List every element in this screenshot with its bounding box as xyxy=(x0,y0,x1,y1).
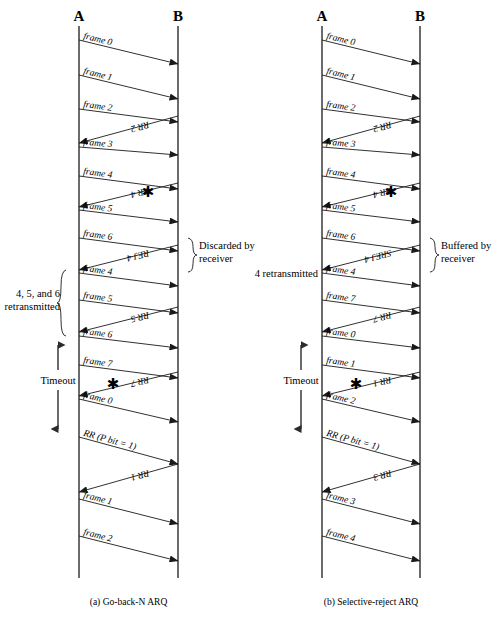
message-arrow xyxy=(79,273,178,286)
corruption-marker: ✱ xyxy=(385,183,398,201)
message-arrow xyxy=(79,147,178,155)
message-label: frame 4 xyxy=(83,263,114,277)
message-label: RR 1 xyxy=(130,468,152,483)
message-arrow xyxy=(322,40,420,64)
node-label-receiver: B xyxy=(415,8,425,24)
message-label: REJ 4 xyxy=(125,248,151,264)
timeout-label: Timeout xyxy=(283,375,318,386)
retransmitted-note-text: 4 retransmitted xyxy=(255,268,319,279)
message-arrow xyxy=(322,536,420,561)
panel-go-back-n: ABframe 0frame 1frame 2RR 2frame 3frame … xyxy=(5,8,256,608)
buffered-brace xyxy=(430,238,439,272)
message-label: frame 7 xyxy=(83,355,115,369)
message-label: frame 6 xyxy=(326,228,357,242)
panel-caption: (a) Go-back-N ARQ xyxy=(90,597,168,608)
message-arrow xyxy=(79,499,178,524)
message-arrow xyxy=(79,536,178,561)
corruption-marker: ✱ xyxy=(107,375,120,393)
message-label: frame 1 xyxy=(326,355,356,369)
discarded-brace-text: Discarded by xyxy=(199,240,255,251)
node-label-sender: A xyxy=(74,8,85,24)
message-arrow xyxy=(322,336,420,348)
message-label: frame 5 xyxy=(326,200,357,214)
retransmitted-brace-text: retransmitted xyxy=(5,301,61,312)
message-label: frame 2 xyxy=(326,99,357,113)
retransmitted-brace-text: 4, 5, and 6 xyxy=(16,288,60,299)
message-arrow xyxy=(79,210,178,222)
message-arrow xyxy=(79,399,178,422)
corruption-marker: ✱ xyxy=(350,375,363,393)
buffered-brace-text: receiver xyxy=(441,253,475,264)
message-arrow xyxy=(322,147,420,155)
message-label: RR 5 xyxy=(129,310,151,325)
message-arrow xyxy=(79,336,178,348)
discarded-brace-text: receiver xyxy=(199,253,233,264)
panel-caption: (b) Selective-reject ARQ xyxy=(324,597,419,608)
message-arrow xyxy=(322,464,420,492)
node-label-receiver: B xyxy=(173,8,183,24)
figure-canvas: ABframe 0frame 1frame 2RR 2frame 3frame … xyxy=(0,0,499,620)
message-label: SREJ 4 xyxy=(363,248,393,265)
corruption-marker: ✱ xyxy=(142,183,155,201)
message-arrow xyxy=(322,399,420,422)
message-label: frame 5 xyxy=(83,200,114,213)
message-arrow xyxy=(79,75,178,99)
message-label: frame 6 xyxy=(83,326,114,339)
message-label: frame 6 xyxy=(83,228,114,242)
buffered-brace-text: Buffered by xyxy=(441,240,492,251)
node-label-sender: A xyxy=(317,8,328,24)
message-arrow xyxy=(322,210,420,222)
message-arrow xyxy=(322,75,420,99)
timeout-label: Timeout xyxy=(40,375,75,386)
arq-timing-diagram: ABframe 0frame 1frame 2RR 2frame 3frame … xyxy=(0,0,499,620)
message-label: frame 2 xyxy=(83,99,114,113)
discarded-brace xyxy=(188,238,197,272)
message-arrow xyxy=(79,464,178,492)
message-label: RR 1 xyxy=(372,375,394,389)
message-arrow xyxy=(322,273,420,286)
message-arrow xyxy=(79,40,178,64)
message-label: RR 7 xyxy=(128,375,151,390)
message-label: RR 7 xyxy=(371,310,394,325)
message-arrow xyxy=(322,499,420,524)
panel-selective-reject: ABframe 0frame 1frame 2RR 2frame 3frame … xyxy=(255,8,492,608)
message-label: frame 0 xyxy=(326,326,357,340)
message-label: RR 3 xyxy=(372,468,394,483)
message-label: frame 4 xyxy=(83,166,114,180)
message-label: frame 7 xyxy=(326,290,358,304)
message-label: frame 4 xyxy=(326,166,357,180)
message-label: frame 5 xyxy=(83,290,114,304)
message-label: frame 4 xyxy=(326,263,357,277)
message-label: RR 2 xyxy=(129,119,151,134)
message-label: RR 2 xyxy=(372,119,394,134)
